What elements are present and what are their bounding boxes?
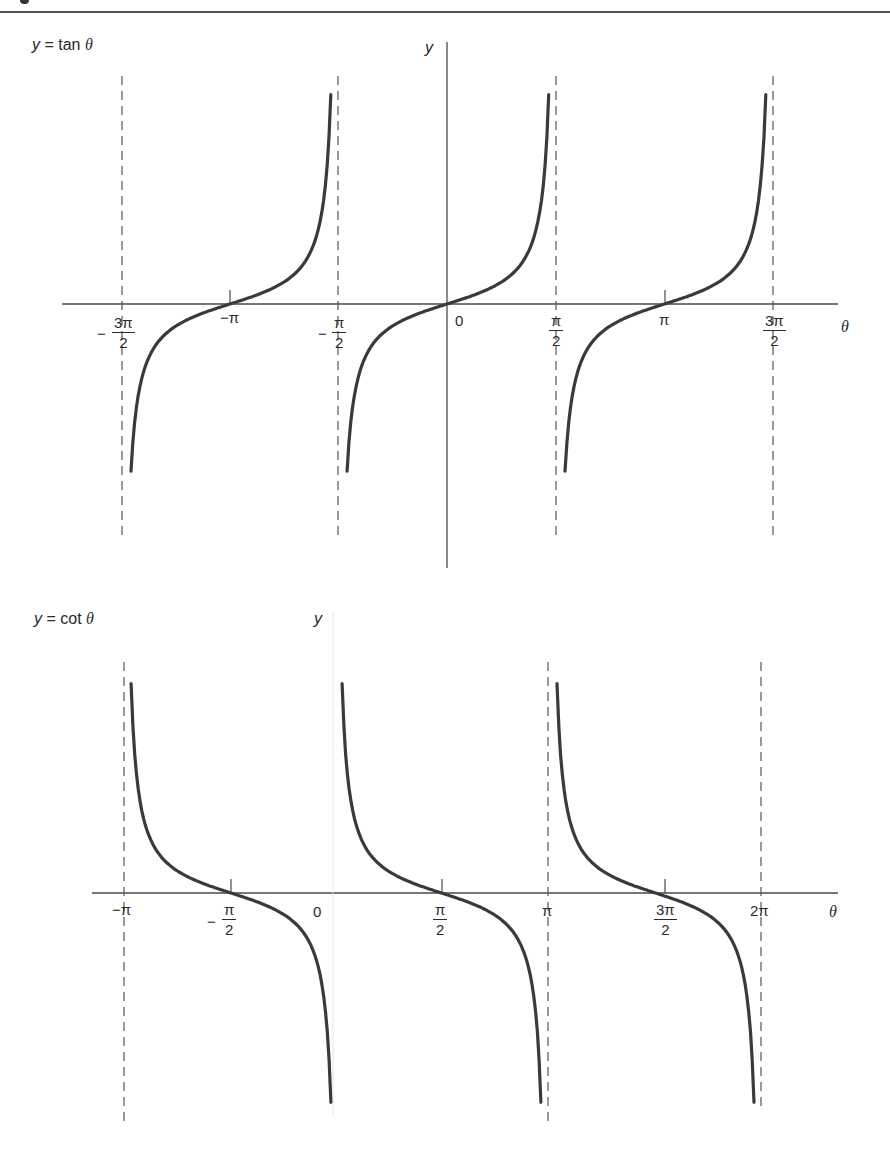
cot-tick-negpi2-den: 2	[225, 920, 233, 937]
tan-tick-3pi2-den: 2	[770, 331, 778, 348]
cot-ticks	[231, 879, 665, 893]
tan-branch	[131, 95, 331, 471]
tan-tick-pi2-den: 2	[552, 331, 560, 348]
tan-branch	[347, 95, 549, 471]
tan-title-y: y	[32, 36, 40, 53]
tan-y-label: y	[425, 40, 433, 56]
tan-tick-negpi: −π	[220, 310, 239, 325]
tan-tick-pi: π	[659, 312, 669, 327]
tan-tick-3pi2-num: 3π	[763, 313, 786, 331]
tan-tick-negpi2-den: 2	[335, 333, 343, 350]
tan-tick-negpi2-num: π	[332, 315, 346, 333]
tan-tick-neg3pi2-sign: −	[97, 326, 106, 341]
cot-tick-2pi: 2π	[750, 903, 769, 918]
tan-tick-negpi2: π 2	[332, 315, 346, 350]
tan-curves	[131, 95, 766, 471]
cot-tick-pi2-den: 2	[436, 920, 444, 937]
cot-tick-negpi2-num: π	[222, 902, 236, 920]
cot-tick-3pi2-den: 2	[661, 920, 669, 937]
cot-theta-label: θ	[829, 904, 837, 920]
tan-tick-neg3pi2-den: 2	[119, 333, 127, 350]
cot-tick-pi2-num: π	[433, 902, 447, 920]
cot-tick-3pi2-num: 3π	[654, 902, 677, 920]
tan-theta-label: θ	[841, 319, 849, 335]
cot-title-theta: θ	[86, 610, 94, 627]
tan-tick-pi2-num: π	[549, 313, 563, 331]
tan-tick-zero: 0	[455, 313, 463, 328]
cot-y-label: y	[314, 611, 322, 627]
tan-tick-neg3pi2: 3π 2	[112, 315, 135, 350]
tan-title-eq: = tan	[40, 36, 85, 53]
cot-title-y: y	[34, 610, 42, 627]
cot-tick-3pi2: 3π 2	[654, 902, 677, 937]
cot-tick-zero: 0	[313, 904, 321, 919]
tan-tick-negpi2-sign: −	[318, 326, 327, 341]
cot-title-eq: = cot	[42, 610, 86, 627]
cot-tick-pi: π	[542, 903, 552, 918]
tan-tick-neg3pi2-num: 3π	[112, 315, 135, 333]
cot-tick-pi2: π 2	[433, 902, 447, 937]
tan-branch	[565, 95, 766, 471]
cot-title: y = cot θ	[34, 611, 94, 627]
cot-tick-negpi2-sign: −	[207, 914, 216, 929]
tan-title-theta: θ	[85, 36, 93, 53]
cot-tick-negpi2: π 2	[222, 902, 236, 937]
tan-tick-3pi2: 3π 2	[763, 313, 786, 348]
plots-canvas	[0, 0, 890, 1172]
tan-title: y = tan θ	[32, 37, 93, 53]
tan-tick-pi2: π 2	[549, 313, 563, 348]
cot-tick-negpi: −π	[112, 902, 131, 917]
